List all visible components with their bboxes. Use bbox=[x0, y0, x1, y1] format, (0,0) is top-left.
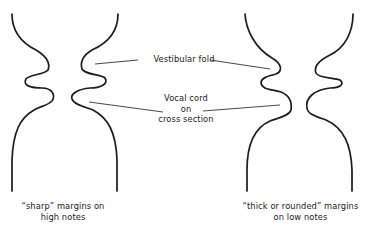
vocal-cord-label: Vocal cord on cross section bbox=[140, 93, 232, 125]
figure-low-notes bbox=[245, 14, 353, 191]
right-figure-left-wall bbox=[245, 14, 291, 191]
caption-high-notes: “sharp” margins on high notes bbox=[4, 201, 122, 223]
caption-low-notes-line2: on low notes bbox=[228, 212, 373, 223]
leader-vestibular-left bbox=[95, 60, 138, 64]
figure-high-notes bbox=[12, 14, 118, 191]
caption-low-notes: “thick or rounded” margins on low notes bbox=[228, 201, 373, 223]
vestibular-fold-label: Vestibular fold bbox=[137, 54, 231, 64]
vocal-cord-label-line2: on bbox=[140, 104, 232, 115]
caption-high-notes-line2: high notes bbox=[4, 212, 122, 223]
vocal-cord-label-line1: Vocal cord bbox=[140, 93, 232, 104]
caption-high-notes-line1: “sharp” margins on bbox=[4, 201, 122, 212]
caption-low-notes-line1: “thick or rounded” margins bbox=[228, 201, 373, 212]
right-figure-right-wall bbox=[307, 14, 353, 191]
left-figure-left-wall bbox=[12, 14, 54, 191]
vocal-cord-label-line3: cross section bbox=[140, 114, 232, 125]
